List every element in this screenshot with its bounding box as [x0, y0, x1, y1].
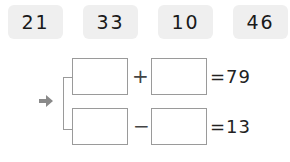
number-chip[interactable]: 10: [158, 5, 213, 39]
answer-box-diff-first[interactable]: [72, 108, 128, 145]
sum-result: =79: [210, 68, 251, 86]
answer-box-diff-second[interactable]: [151, 108, 207, 145]
number-chip[interactable]: 33: [83, 5, 138, 39]
number-chip[interactable]: 46: [233, 5, 288, 39]
difference-result: =13: [210, 118, 251, 136]
plus-operator: +: [132, 66, 149, 86]
answer-box-sum-second[interactable]: [151, 58, 207, 95]
answer-box-sum-first[interactable]: [72, 58, 128, 95]
arrow-right-icon: [38, 94, 54, 108]
number-chip[interactable]: 21: [8, 5, 63, 39]
minus-operator: −: [133, 116, 150, 136]
